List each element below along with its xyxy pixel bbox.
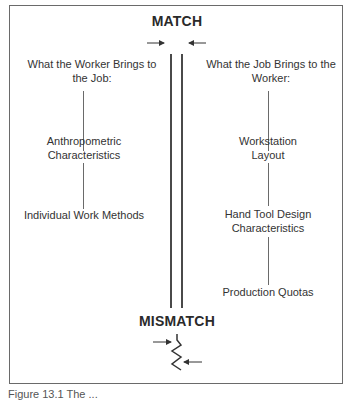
figure-caption: Figure 13.1 The ... [8,388,98,400]
broken-zigzag-icon [172,334,181,370]
